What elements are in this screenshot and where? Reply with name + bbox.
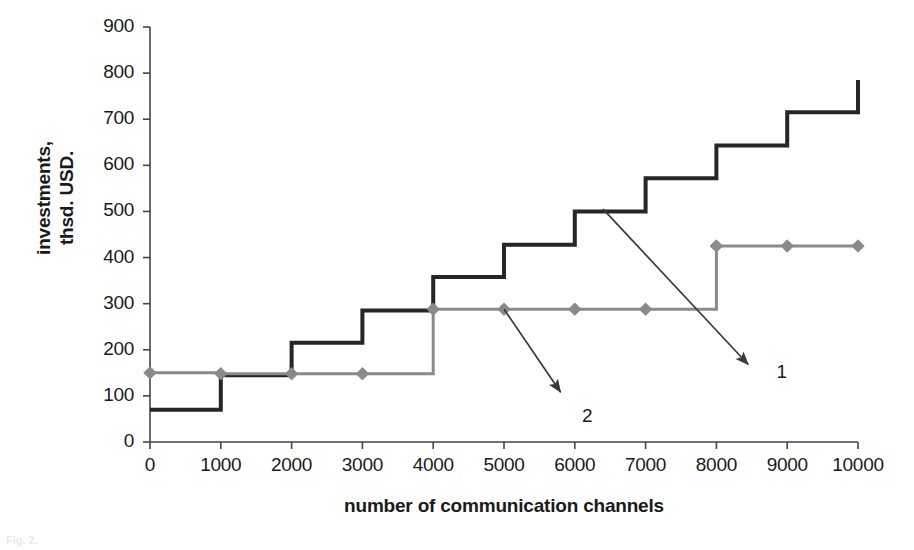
figure-caption: Fig. 2. xyxy=(6,534,38,546)
data-point-marker xyxy=(639,303,651,315)
data-point-marker xyxy=(144,367,156,379)
chart-figure: investments, thsd. USD. 0100200300400500… xyxy=(0,0,914,550)
data-point-marker xyxy=(215,368,227,380)
data-point-marker xyxy=(852,240,864,252)
x-axis-tick-label: 10000 xyxy=(803,454,913,476)
y-axis-tick-label: 700 xyxy=(72,107,134,129)
y-axis-tick-label: 800 xyxy=(72,61,134,83)
y-axis-tick-label: 600 xyxy=(72,153,134,175)
annotation-label-1: 1 xyxy=(777,361,788,383)
y-axis-tick-label: 100 xyxy=(72,384,134,406)
annotation-arrow xyxy=(504,309,561,392)
y-axis-tick-label: 0 xyxy=(72,430,134,452)
y-axis-tick-label: 400 xyxy=(72,246,134,268)
y-axis-tick-label: 200 xyxy=(72,338,134,360)
y-axis-title-line-1: investments, xyxy=(32,48,55,348)
y-axis-tick-label: 900 xyxy=(72,15,134,37)
data-point-marker xyxy=(356,368,368,380)
annotation-arrow xyxy=(603,209,748,364)
y-axis-tick-label: 500 xyxy=(72,199,134,221)
x-axis-title: number of communication channels xyxy=(150,495,858,517)
annotation-arrows xyxy=(504,209,748,392)
data-point-marker xyxy=(781,240,793,252)
data-point-marker xyxy=(285,368,297,380)
y-axis-tick-label: 300 xyxy=(72,292,134,314)
data-point-marker xyxy=(569,303,581,315)
axes xyxy=(143,27,858,449)
annotation-label-2: 2 xyxy=(582,405,593,427)
data-point-marker xyxy=(710,240,722,252)
data-point-marker xyxy=(427,303,439,315)
